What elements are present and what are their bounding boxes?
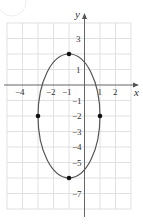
co-vertex-right-point bbox=[98, 114, 103, 119]
y-axis-label: y bbox=[74, 8, 80, 20]
x-tick-label: −1 bbox=[62, 87, 72, 97]
y-tick-label: 1 bbox=[76, 65, 81, 75]
x-tick-label: 2 bbox=[113, 87, 118, 97]
co-vertex-left-point bbox=[36, 114, 41, 119]
x-axis-label: x bbox=[133, 86, 139, 98]
faint-label-circle bbox=[0, 0, 26, 16]
y-axis-arrow-icon bbox=[82, 13, 87, 19]
y-tick-label: −2 bbox=[72, 111, 82, 121]
x-tick-label: −2 bbox=[46, 87, 56, 97]
y-tick-label: −4 bbox=[72, 142, 82, 152]
y-tick-label: −3 bbox=[72, 127, 82, 137]
vertex-top-point bbox=[67, 52, 72, 57]
grid bbox=[7, 23, 131, 209]
y-tick-label: −7 bbox=[72, 189, 82, 199]
vertex-bottom-point bbox=[67, 176, 72, 181]
y-tick-label: 3 bbox=[76, 34, 81, 44]
ellipse-graph: x y −4 −2 −1 1 2 3 1 −1 −2 −3 −4 −5 −7 bbox=[0, 0, 143, 224]
x-tick-label: −4 bbox=[15, 87, 25, 97]
y-tick-label: −5 bbox=[72, 158, 82, 168]
y-tick-label: −1 bbox=[72, 96, 82, 106]
